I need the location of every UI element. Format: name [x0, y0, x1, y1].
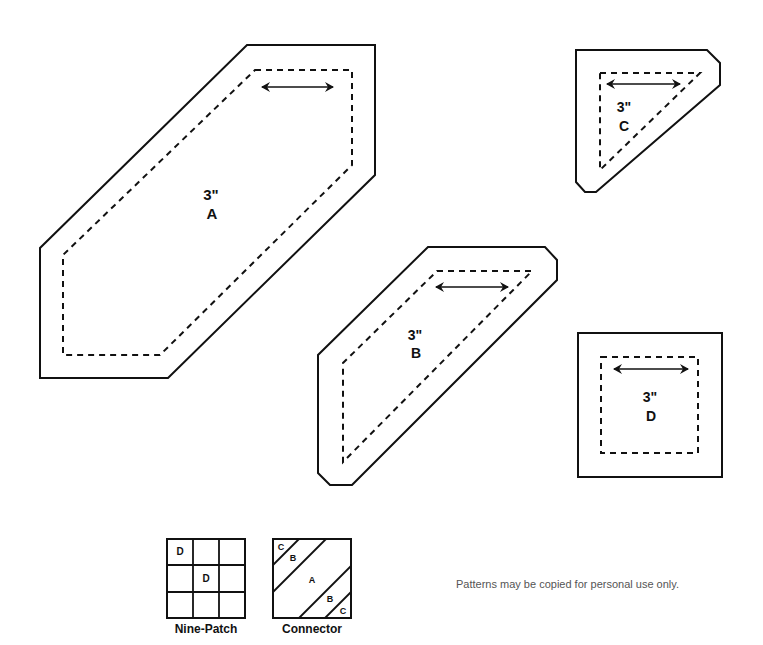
connector-label: B [290, 553, 297, 563]
nine-patch-cell-label: D [176, 546, 183, 557]
piece-c-letter: C [619, 118, 629, 134]
piece-a-template: 3" A [40, 45, 375, 378]
piece-c-size: 3" [617, 99, 631, 115]
piece-b-template: 3" B [318, 247, 557, 485]
piece-d-seam-line [601, 357, 698, 453]
piece-c-template: 3" C [576, 50, 720, 192]
connector-label: A [309, 575, 316, 585]
piece-d-size: 3" [643, 389, 657, 405]
piece-c-seam-line [600, 73, 700, 170]
pattern-canvas: 3" A 3" C 3" B 3" D D D Nine-Patch [0, 0, 763, 645]
piece-d-template: 3" D [578, 333, 722, 477]
piece-a-letter: A [207, 205, 218, 222]
piece-b-size: 3" [408, 327, 422, 343]
nine-patch-caption: Nine-Patch [175, 622, 238, 636]
connector-label: C [278, 542, 285, 552]
copyright-note: Patterns may be copied for personal use … [456, 578, 679, 590]
piece-b-seam-line [343, 271, 532, 462]
piece-c-cut-line [576, 50, 720, 192]
piece-d-cut-line [578, 333, 722, 477]
connector-label: C [340, 606, 347, 616]
connector-caption: Connector [282, 622, 342, 636]
piece-d-letter: D [646, 408, 656, 424]
piece-a-size: 3" [203, 186, 218, 203]
nine-patch-diagram: D D Nine-Patch [167, 539, 245, 636]
piece-b-letter: B [411, 345, 421, 361]
connector-label: B [327, 594, 334, 604]
nine-patch-cell-label: D [202, 573, 209, 584]
connector-diagram: C B A B C Connector [273, 539, 351, 636]
